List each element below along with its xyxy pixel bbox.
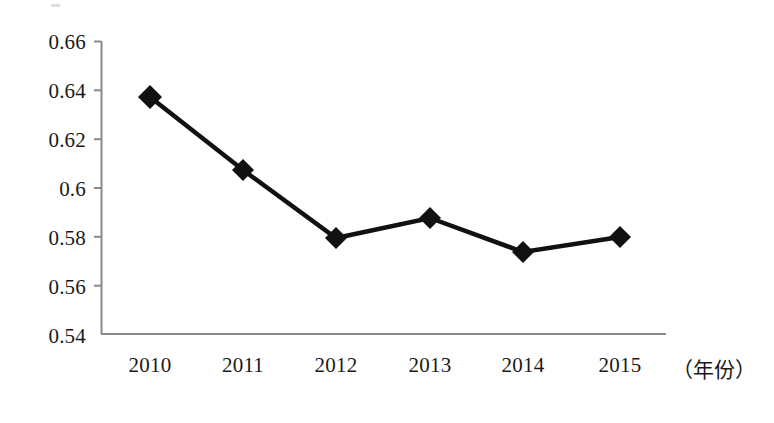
y-axis-label-1: 0.64	[14, 79, 86, 104]
x-axis-label-2010: 2010	[105, 353, 195, 378]
x-axis-label-2014: 2014	[478, 353, 568, 378]
y-axis-label-0: 0.66	[14, 30, 86, 55]
chart-container: 0.66 0.64 0.62 0.6 0.58 0.56 0.54 2010 2…	[0, 0, 774, 423]
y-axis-label-4: 0.58	[14, 226, 86, 251]
x-axis-label-2015: 2015	[575, 353, 665, 378]
y-axis-label-2: 0.62	[14, 128, 86, 153]
data-point-2014	[512, 241, 534, 263]
data-point-2013	[419, 207, 441, 229]
x-axis-label-2013: 2013	[385, 353, 475, 378]
x-axis-title: （年份）	[672, 353, 756, 383]
y-axis-label-3: 0.6	[14, 177, 86, 202]
y-axis-label-5: 0.56	[14, 275, 86, 300]
x-axis-label-2011: 2011	[198, 353, 288, 378]
data-point-2015	[609, 226, 631, 248]
y-axis-label-6: 0.54	[14, 324, 86, 349]
x-axis-label-2012: 2012	[291, 353, 381, 378]
y-axis-ticks	[94, 42, 101, 286]
data-point-markers	[138, 85, 631, 263]
data-line-series	[150, 97, 620, 252]
